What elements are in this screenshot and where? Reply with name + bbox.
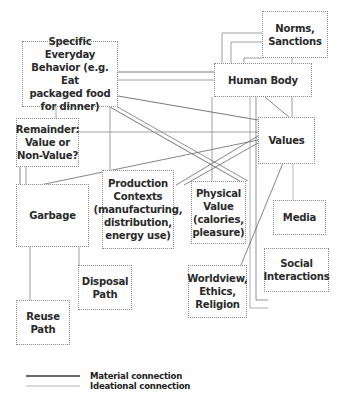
node-reuse-path: Reuse Path: [16, 300, 70, 345]
node-values: Values: [258, 117, 315, 164]
node-norms-sanctions: Norms, Sanctions: [262, 11, 328, 58]
node-garbage: Garbage: [16, 184, 89, 247]
node-social-interactions: Social Interactions: [264, 248, 329, 292]
node-worldview-ethics-religion: Worldview, Ethics, Religion: [188, 265, 247, 318]
node-human-body: Human Body: [214, 63, 312, 97]
legend-ideational-label: Ideational connection: [90, 380, 190, 391]
legend-ideational: Ideational connection: [90, 380, 190, 391]
node-media: Media: [273, 200, 326, 235]
node-specific-everyday-behavior: Specific Everyday Behavior (e.g. Eat pac…: [22, 41, 118, 107]
node-remainder: Remainder: Value or Non-Value?: [16, 118, 79, 167]
node-physical-value: Physical Value (calories, pleasure): [191, 181, 246, 244]
node-production-contexts: Production Contexts (manufacturing, dist…: [102, 170, 174, 249]
node-disposal-path: Disposal Path: [78, 265, 132, 310]
